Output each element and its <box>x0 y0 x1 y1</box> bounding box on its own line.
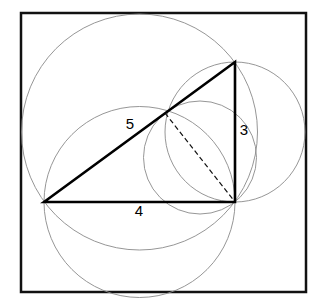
side-label-hypotenuse: 5 <box>126 115 134 132</box>
geometry-figure-canvas: 5 3 4 <box>0 0 328 308</box>
geometry-svg: 5 3 4 <box>0 0 328 308</box>
figure-background <box>0 0 328 308</box>
side-label-vertical-leg: 3 <box>240 121 248 138</box>
side-label-horizontal-leg: 4 <box>135 202 143 219</box>
